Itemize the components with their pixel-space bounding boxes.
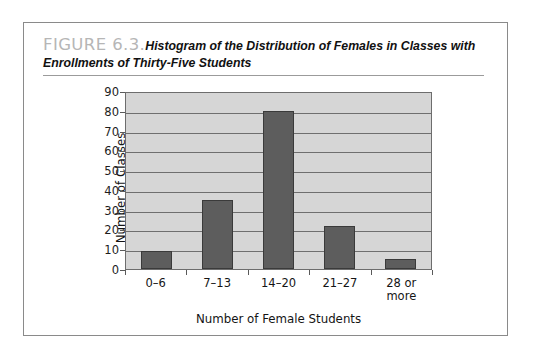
bar[interactable] — [385, 259, 417, 269]
y-axis-tick-label: 20 — [93, 223, 119, 237]
y-axis-tick-label: 30 — [93, 204, 119, 218]
y-axis-tick-label: 90 — [93, 85, 119, 99]
histogram-chart: Number of Classes 0102030405060708090 0–… — [24, 83, 509, 333]
x-axis-tick-label: 28 ormore — [371, 277, 432, 303]
y-axis-tick-label: 0 — [93, 263, 119, 277]
y-axis-tick-label: 60 — [93, 144, 119, 158]
y-axis-tick-label: 10 — [93, 243, 119, 257]
y-axis-tick-label: 70 — [93, 125, 119, 139]
caption-line-1: FIGURE 6.3.Histogram of the Distribution… — [43, 36, 485, 55]
figure-card: FIGURE 6.3.Histogram of the Distribution… — [23, 22, 508, 336]
y-axis-tick-label: 50 — [93, 164, 119, 178]
y-axis-tick-label: 80 — [93, 105, 119, 119]
x-axis-tick-label: 0–6 — [125, 277, 186, 303]
bar[interactable] — [324, 226, 356, 270]
bar-slot — [187, 93, 248, 269]
x-axis-tick-label: 14–20 — [248, 277, 309, 303]
figure-number-label: FIGURE 6.3. — [43, 35, 145, 54]
caption-text-part-1: Histogram of the Distribution of Females… — [145, 39, 475, 53]
bars-layer — [126, 93, 431, 269]
bar[interactable] — [263, 111, 295, 269]
x-axis-tick-mark — [186, 270, 187, 275]
y-axis-tick-label: 40 — [93, 184, 119, 198]
bar-slot — [309, 93, 370, 269]
x-axis-tick-mark — [371, 270, 372, 275]
bar-slot — [248, 93, 309, 269]
caption-text-part-2: Enrollments of Thirty-Five Students — [43, 56, 251, 70]
caption-divider — [43, 75, 484, 76]
x-axis-tick-label: 21–27 — [309, 277, 370, 303]
x-axis-tick-mark — [125, 270, 126, 275]
bar-slot — [370, 93, 431, 269]
bar[interactable] — [202, 200, 234, 269]
figure-caption: FIGURE 6.3.Histogram of the Distribution… — [43, 36, 485, 72]
x-axis-tick-label: 7–13 — [186, 277, 247, 303]
caption-line-2: Enrollments of Thirty-Five Students — [43, 55, 485, 72]
x-axis-title: Number of Female Students — [125, 312, 432, 326]
x-axis-tick-mark — [309, 270, 310, 275]
x-axis-tick-mark — [432, 270, 433, 275]
bar-slot — [126, 93, 187, 269]
x-axis-tick-labels: 0–67–1314–2021–2728 ormore — [125, 277, 432, 303]
bar[interactable] — [141, 251, 173, 269]
x-axis-tick-mark — [248, 270, 249, 275]
plot-area — [125, 92, 432, 270]
